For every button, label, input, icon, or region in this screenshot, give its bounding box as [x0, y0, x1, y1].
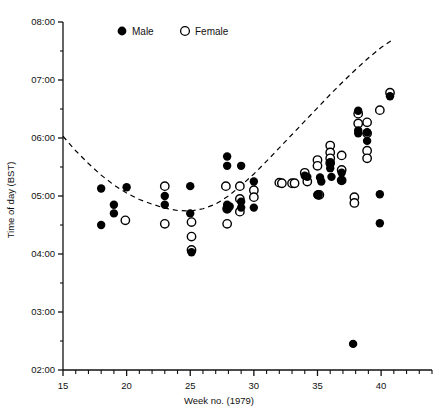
data-point-male: [250, 203, 258, 211]
data-point-female: [313, 162, 321, 170]
data-point-male: [376, 190, 384, 198]
data-point-male: [237, 203, 245, 211]
data-point-male: [110, 209, 118, 217]
data-point-female: [290, 179, 298, 187]
data-point-female: [187, 218, 195, 226]
data-point-male: [317, 177, 325, 185]
x-axis-tick-label: 35: [312, 380, 323, 391]
x-axis-tick-label: 40: [376, 380, 387, 391]
data-point-female: [161, 220, 169, 228]
y-axis-title: Time of day (BST): [5, 162, 16, 239]
legend-female-label: Female: [195, 26, 229, 37]
y-axis-tick-label: 03:00: [31, 306, 55, 317]
data-point-male: [363, 128, 371, 136]
data-point-male: [376, 219, 384, 227]
data-point-female: [223, 220, 231, 228]
series-male-points: [97, 92, 394, 348]
data-point-female: [350, 199, 358, 207]
data-point-male: [337, 169, 345, 177]
x-axis-tick-label: 15: [58, 380, 69, 391]
data-point-female: [250, 193, 258, 201]
data-point-male: [161, 201, 169, 209]
data-point-male: [337, 176, 345, 184]
data-point-male: [326, 164, 334, 172]
legend-male-label: Male: [132, 26, 154, 37]
data-point-female: [161, 182, 169, 190]
scatter-plot-figure: 02:0003:0004:0005:0006:0007:0008:0015202…: [0, 0, 438, 415]
data-point-male: [327, 173, 335, 181]
data-point-male: [161, 192, 169, 200]
y-axis-tick-label: 08:00: [31, 16, 55, 27]
x-axis-tick-label: 20: [121, 380, 132, 391]
y-axis-tick-label: 02:00: [31, 364, 55, 375]
chart-legend: Male Female: [118, 26, 229, 37]
data-point-female: [121, 216, 129, 224]
x-axis-tick-label: 30: [249, 380, 260, 391]
data-point-male: [97, 221, 105, 229]
data-point-male: [223, 152, 231, 160]
data-point-male: [349, 340, 357, 348]
data-point-male: [97, 184, 105, 192]
legend-male-marker-icon: [118, 27, 127, 36]
data-point-female: [337, 151, 345, 159]
data-point-male: [354, 129, 362, 137]
data-point-male: [110, 201, 118, 209]
data-point-male: [223, 162, 231, 170]
data-point-male: [250, 177, 258, 185]
data-point-male: [315, 191, 323, 199]
data-point-male: [386, 92, 394, 100]
y-axis-tick-label: 06:00: [31, 132, 55, 143]
data-point-male: [237, 162, 245, 170]
data-point-male: [363, 137, 371, 145]
data-point-male: [354, 107, 362, 115]
data-point-male: [225, 202, 233, 210]
data-point-male: [186, 209, 194, 217]
y-axis-tick-label: 04:00: [31, 248, 55, 259]
data-point-female: [363, 118, 371, 126]
data-point-female: [278, 179, 286, 187]
data-point-male: [303, 173, 311, 181]
y-axis-tick-label: 07:00: [31, 74, 55, 85]
series-female-points: [121, 89, 394, 255]
y-axis-tick-label: 05:00: [31, 190, 55, 201]
data-point-male: [187, 248, 195, 256]
data-point-female: [363, 154, 371, 162]
data-point-female: [236, 182, 244, 190]
data-point-female: [187, 232, 195, 240]
data-point-male: [186, 182, 194, 190]
data-point-female: [222, 182, 230, 190]
x-axis-tick-label: 25: [185, 380, 196, 391]
legend-female-marker-icon: [181, 27, 190, 36]
data-point-male: [122, 183, 130, 191]
data-point-female: [376, 106, 384, 114]
chart-canvas: 02:0003:0004:0005:0006:0007:0008:0015202…: [0, 0, 438, 415]
x-axis-title: Week no. (1979): [184, 395, 254, 406]
